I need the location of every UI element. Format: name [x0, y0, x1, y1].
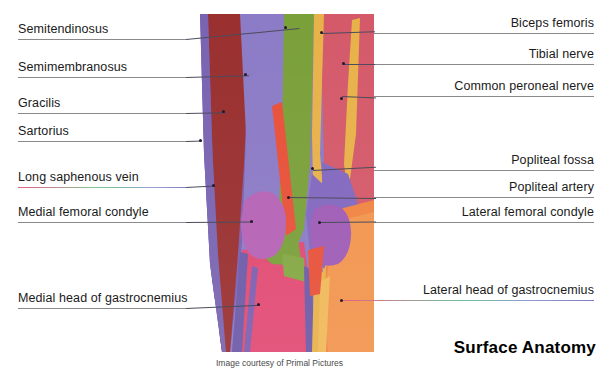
rule-popliteal-fossa: [374, 170, 594, 171]
rule-medial-head-of-gastrocnemius: [18, 308, 186, 309]
label-common-peroneal-nerve[interactable]: Common peroneal nerve: [454, 79, 594, 93]
marker-long-saphenous-vein: [212, 184, 215, 187]
marker-biceps-femoris: [320, 31, 323, 34]
label-semitendinosus[interactable]: Semitendinosus: [18, 22, 108, 36]
marker-lateral-femoral-condyle: [318, 221, 321, 224]
rule-popliteal-artery: [374, 197, 594, 198]
label-lateral-head-of-gastrocnemius[interactable]: Lateral head of gastrocnemius: [423, 283, 594, 297]
page-title: Surface Anatomy: [454, 338, 596, 358]
rule-biceps-femoris: [374, 33, 594, 34]
label-biceps-femoris[interactable]: Biceps femoris: [511, 16, 594, 30]
marker-lateral-head-of-gastrocnemius: [340, 299, 343, 302]
label-lateral-femoral-condyle[interactable]: Lateral femoral condyle: [462, 205, 594, 219]
label-medial-femoral-condyle[interactable]: Medial femoral condyle: [18, 205, 149, 219]
rule-sartorius: [18, 141, 186, 142]
rule-common-peroneal-nerve: [374, 96, 594, 97]
marker-popliteal-fossa: [311, 167, 314, 170]
marker-sartorius: [199, 139, 202, 142]
marker-semimembranosus: [244, 73, 247, 76]
rule-tibial-nerve: [374, 64, 594, 65]
rule-semimembranosus: [18, 77, 186, 78]
rule-long-saphenous-vein: [18, 187, 186, 188]
label-tibial-nerve[interactable]: Tibial nerve: [529, 47, 594, 61]
surface-anatomy-figure: Image courtesy of Primal Pictures Surfac…: [0, 0, 610, 388]
label-long-saphenous-vein[interactable]: Long saphenous vein: [18, 170, 139, 184]
leader-tibial-nerve: [344, 64, 375, 65]
label-sartorius[interactable]: Sartorius: [18, 124, 69, 138]
rule-lateral-femoral-condyle: [374, 222, 594, 223]
marker-common-peroneal-nerve: [340, 97, 343, 100]
marker-popliteal-artery: [287, 196, 290, 199]
label-popliteal-artery[interactable]: Popliteal artery: [509, 180, 594, 194]
rule-semitendinosus: [18, 39, 186, 40]
marker-medial-femoral-condyle: [250, 220, 253, 223]
rule-gracilis: [18, 113, 186, 114]
image-credit-caption: Image courtesy of Primal Pictures: [216, 358, 343, 368]
marker-medial-head-of-gastrocnemius: [257, 303, 260, 306]
label-semimembranosus[interactable]: Semimembranosus: [18, 60, 127, 74]
label-medial-head-of-gastrocnemius[interactable]: Medial head of gastrocnemius: [18, 291, 188, 305]
label-popliteal-fossa[interactable]: Popliteal fossa: [511, 153, 594, 167]
rule-lateral-head-of-gastrocnemius: [342, 300, 594, 301]
label-gracilis[interactable]: Gracilis: [18, 96, 60, 110]
marker-semitendinosus: [284, 26, 287, 29]
marker-tibial-nerve: [342, 62, 345, 65]
marker-gracilis: [222, 110, 225, 113]
rule-medial-femoral-condyle: [18, 222, 186, 223]
